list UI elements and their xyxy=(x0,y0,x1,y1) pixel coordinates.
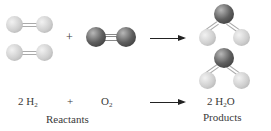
oxygen-atom xyxy=(214,48,234,68)
reaction-arrow-icon xyxy=(150,38,184,39)
hydrogen-atom xyxy=(233,72,250,89)
products-label: Products xyxy=(203,111,242,123)
hydrogen-atom xyxy=(233,29,250,46)
hydrogen-atom xyxy=(36,16,53,33)
reactants-label: Reactants xyxy=(46,113,89,125)
hydrogen-atom xyxy=(199,29,216,46)
oxygen-atom xyxy=(86,27,106,47)
hydrogen-atom xyxy=(36,44,53,61)
hydrogen-atom xyxy=(199,72,216,89)
product-h2o: 2 H2O xyxy=(207,95,235,109)
oxygen-atom xyxy=(214,4,234,24)
equation-arrow-icon xyxy=(150,102,184,103)
oxygen-atom xyxy=(116,27,136,47)
plus-sign: + xyxy=(66,30,73,45)
reactant-h2: 2 H2 xyxy=(18,95,38,109)
equation-plus: + xyxy=(67,95,73,107)
hydrogen-atom xyxy=(6,44,23,61)
reactant-o2: O2 xyxy=(101,95,112,109)
hydrogen-atom xyxy=(6,16,23,33)
